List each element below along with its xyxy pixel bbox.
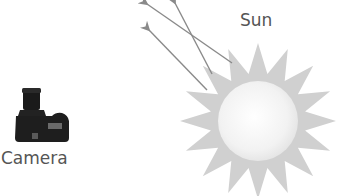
sun-core (218, 81, 298, 161)
sun-label: Sun (240, 12, 272, 29)
dslr-camera-icon (15, 88, 69, 142)
light-ray-arrow (147, 4, 232, 63)
sun-icon (180, 43, 336, 196)
diagram-canvas: Sun Camera (0, 0, 339, 196)
camera-label: Camera (1, 150, 68, 167)
